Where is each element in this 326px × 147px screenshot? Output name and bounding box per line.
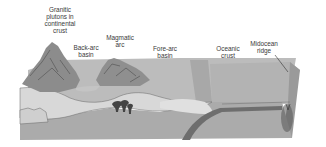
label-granitic-plutons: Granitic plutons in continental crust [36, 6, 84, 34]
subduction-diagram: Granitic plutons in continental crust Ba… [0, 0, 326, 147]
ridge-magma [281, 104, 293, 132]
label-magmatic-arc: Magmatic arc [102, 34, 138, 48]
label-fore-arc-basin: Fore-arc basin [148, 45, 182, 59]
label-midocean-ridge: Midocean ridge [245, 40, 283, 54]
label-back-arc-basin: Back-arc basin [68, 44, 104, 58]
oceanic-crust-surface [210, 62, 300, 102]
label-oceanic-crust: Oceanic crust [211, 45, 245, 59]
pluton-outline [20, 108, 48, 124]
